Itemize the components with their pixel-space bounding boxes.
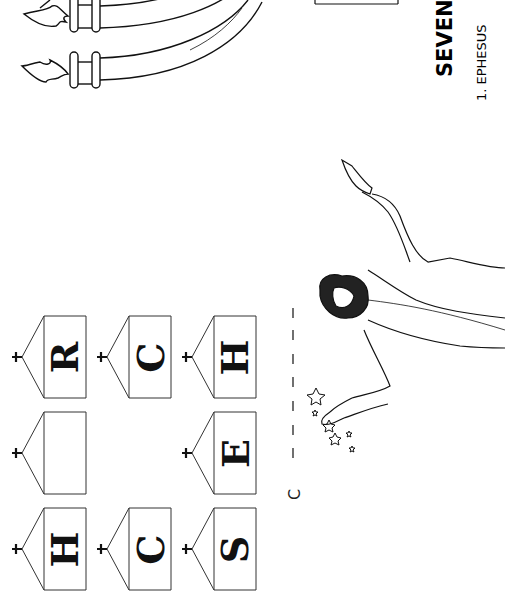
church-letter: C	[129, 316, 171, 398]
star-icon	[323, 420, 335, 432]
church-letter-blank[interactable]	[44, 412, 86, 494]
lampstand-arcs-icon	[22, 0, 262, 88]
christ-figure-illustration	[320, 160, 505, 425]
church-letter: H	[44, 508, 86, 590]
worksheet-title: SEVEN CHU	[433, 0, 457, 77]
church-letter: S	[214, 508, 256, 590]
church-letter: E	[214, 412, 256, 494]
title-frame	[315, 0, 398, 4]
star-icon	[312, 410, 318, 416]
church-letter: H	[214, 316, 256, 398]
star-icon	[307, 388, 325, 405]
stars-group	[307, 388, 355, 452]
star-icon	[349, 446, 355, 452]
star-icon	[346, 431, 352, 437]
worksheet-subtitle: 1. EPHESUS	[474, 24, 489, 101]
star-icon	[329, 433, 341, 445]
answer-prefix: C	[285, 487, 304, 500]
church-letter: R	[44, 316, 86, 398]
church-letter: C	[129, 508, 171, 590]
